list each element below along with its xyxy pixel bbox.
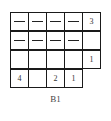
cell-number: 4	[18, 74, 22, 83]
grid-cell	[64, 12, 83, 31]
grid-cell	[46, 31, 65, 50]
grid-cell: 1	[64, 69, 83, 88]
dash-mark	[32, 40, 43, 42]
dash-mark	[68, 40, 79, 42]
figure-label: B1	[0, 94, 111, 104]
grid-cell	[28, 69, 47, 88]
grid-cell	[64, 31, 83, 50]
grid-cell: 2	[46, 69, 65, 88]
grid-cell	[46, 12, 65, 31]
puzzle-grid: 3 1 4 2 1	[10, 12, 100, 88]
grid-cell	[10, 12, 29, 31]
dash-mark	[32, 21, 43, 23]
grid-cell	[10, 50, 29, 69]
dash-mark	[14, 40, 25, 42]
grid-cell: 4	[10, 69, 29, 88]
grid-cell	[28, 50, 47, 69]
dash-mark	[50, 21, 61, 23]
grid-row-2	[10, 31, 100, 50]
grid-cell: 1	[82, 50, 101, 69]
grid-cell	[28, 31, 47, 50]
grid-cell: 3	[82, 12, 101, 31]
cell-number: 3	[90, 17, 94, 26]
grid-cell	[46, 50, 65, 69]
grid-row-3: 1	[10, 50, 100, 69]
cell-number: 1	[72, 74, 76, 83]
dash-mark	[68, 21, 79, 23]
grid-cell	[64, 50, 83, 69]
cell-number: 1	[90, 55, 94, 64]
grid-row-4: 4 2 1	[10, 69, 100, 88]
cell-number: 2	[54, 74, 58, 83]
dash-mark	[50, 40, 61, 42]
grid-cell	[82, 31, 101, 50]
dash-mark	[14, 21, 25, 23]
grid-cell	[28, 12, 47, 31]
grid-cell	[10, 31, 29, 50]
grid-row-1: 3	[10, 12, 100, 31]
